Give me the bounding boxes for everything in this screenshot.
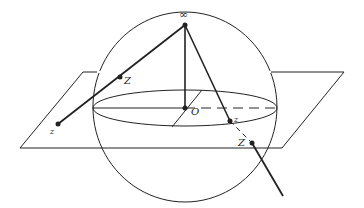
- complex-plane: [20, 72, 344, 148]
- left-plane-point: [56, 122, 61, 127]
- left-plane-point-label: z: [49, 127, 55, 136]
- riemann-sphere-diagram: ∞ O Z z z Z: [0, 0, 364, 208]
- left-projection-line: [58, 25, 185, 124]
- left-sphere-point: [118, 75, 123, 80]
- right-plane-point-label: z: [233, 115, 239, 124]
- right-plane-point: [228, 119, 233, 124]
- left-sphere-point-label: Z: [123, 75, 132, 86]
- right-sphere-point: [250, 141, 255, 146]
- right-sphere-point-label: Z: [237, 137, 246, 148]
- north-pole-point: [183, 23, 188, 28]
- origin-label: O: [191, 106, 199, 117]
- origin-point: [183, 106, 188, 111]
- right-projection-line-lower: [252, 143, 283, 196]
- infinity-label: ∞: [179, 8, 188, 21]
